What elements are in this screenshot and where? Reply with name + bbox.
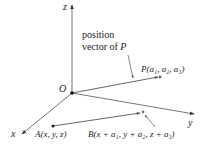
vector-a-to-b: [53, 113, 140, 126]
annotation-line2-var: P: [119, 41, 126, 52]
point-b-dot: [142, 111, 145, 114]
annotation-pointer: [128, 55, 133, 78]
y-axis-label: y: [187, 117, 193, 128]
point-p-label: P(a₁, a₂, a₃): [140, 64, 184, 74]
z-axis-label: z: [62, 1, 67, 12]
annotation-line2: vector of P: [82, 41, 126, 52]
y-axis: [72, 93, 194, 114]
annotation-line2-text: vector of: [82, 41, 120, 52]
annotation-line1: position: [82, 29, 114, 40]
b-label-pointer: [145, 115, 155, 127]
point-a-coords: (x, y, z): [41, 129, 67, 139]
point-p-dot: [159, 76, 162, 79]
point-b-coords: (x + a₁, y + a₂, z + a₃): [94, 129, 175, 139]
position-vector-p: [72, 77, 158, 93]
point-b-label: B(x + a₁, y + a₂, z + a₃): [88, 129, 175, 139]
point-a-dot: [51, 124, 54, 127]
point-a-label: A(x, y, z): [34, 129, 67, 139]
vector-diagram: z O x y position vector of P P(a₁, a₂, a…: [0, 0, 206, 150]
origin-dot: [70, 91, 74, 95]
x-axis-label: x: [10, 128, 16, 139]
origin-label: O: [59, 83, 66, 94]
point-p-coords: (a₁, a₂, a₃): [147, 64, 185, 74]
x-axis: [22, 93, 72, 134]
